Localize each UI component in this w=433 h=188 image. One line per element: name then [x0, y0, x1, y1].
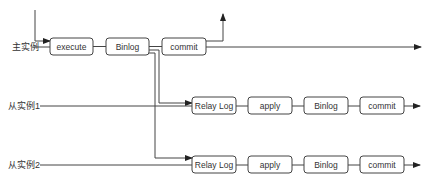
master-entry-arrow: [35, 10, 50, 41]
svg-text:Relay Log: Relay Log: [195, 160, 234, 170]
slave2-box-relaylog: Relay Log: [192, 156, 236, 173]
slave2-box-apply: apply: [248, 156, 292, 173]
svg-text:apply: apply: [260, 160, 281, 170]
master-box-commit: commit: [162, 38, 206, 55]
slave2-box-commit: commit: [360, 156, 404, 173]
svg-text:commit: commit: [170, 42, 198, 52]
svg-text:Relay Log: Relay Log: [195, 101, 234, 111]
slave1-box-commit: commit: [360, 97, 404, 114]
slave2-box-binlog: Binlog: [304, 156, 348, 173]
svg-text:commit: commit: [368, 101, 396, 111]
slave1-box-binlog: Binlog: [304, 97, 348, 114]
svg-text:execute: execute: [57, 42, 87, 52]
svg-text:commit: commit: [368, 160, 396, 170]
svg-text:Binlog: Binlog: [314, 101, 338, 111]
slave1-box-relaylog: Relay Log: [192, 97, 236, 114]
replication-diagram: 主实例 execute Binlog commit 从实例1 Relay Log…: [0, 0, 433, 188]
svg-text:apply: apply: [260, 101, 281, 111]
svg-text:Binlog: Binlog: [116, 42, 140, 52]
slave2-label: 从实例2: [8, 159, 40, 170]
slave1-box-apply: apply: [248, 97, 292, 114]
svg-text:Binlog: Binlog: [314, 160, 338, 170]
master-up-arrow: [206, 14, 223, 41]
slave1-label: 从实例1: [8, 100, 40, 111]
master-box-execute: execute: [50, 38, 93, 55]
master-box-binlog: Binlog: [106, 38, 149, 55]
